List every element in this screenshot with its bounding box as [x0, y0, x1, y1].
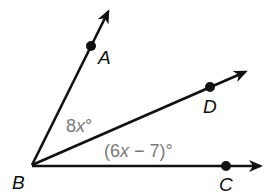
ray-ba: [32, 12, 108, 165]
label-d: D: [203, 96, 217, 117]
point-d: [205, 82, 215, 92]
angle-diagram: A D B C 8x° (6x − 7)°: [0, 0, 273, 193]
point-c: [221, 161, 231, 171]
label-a: A: [97, 47, 111, 68]
label-b: B: [12, 172, 25, 193]
angle-abd-label: 8x°: [66, 116, 92, 136]
label-c: C: [219, 174, 233, 193]
point-a: [86, 41, 96, 51]
angle-dbc-label: (6x − 7)°: [104, 141, 173, 161]
